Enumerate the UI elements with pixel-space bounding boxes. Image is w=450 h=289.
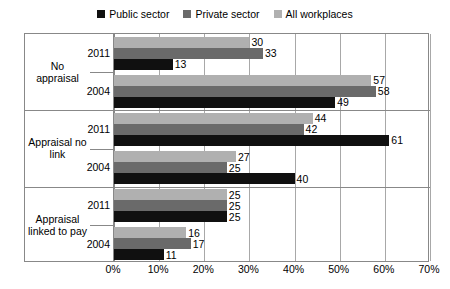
bar-row: 27 [114,151,430,162]
bar-all-workplaces [114,151,236,162]
bar-value-label: 42 [304,124,318,135]
x-axis-tick-labels: 0%10%20%30%40%50%60%70% [113,264,429,282]
x-axis-tick: 20% [193,264,214,275]
bar-value-label: 30 [249,37,263,48]
year-divider [90,149,114,150]
bar-private-sector [114,238,191,249]
category-label: Appraisal nolink [25,136,89,160]
x-axis-tick: 60% [373,264,394,275]
bar-value-label: 61 [389,135,403,146]
x-axis-tick: 50% [328,264,349,275]
bar-all-workplaces [114,75,371,86]
bar-row: 25 [114,200,430,211]
bar-row: 61 [114,135,430,146]
x-axis-tick: 40% [283,264,304,275]
category-label: Noappraisal [33,60,82,84]
bar-row: 42 [114,124,430,135]
bar-public-sector [114,135,389,146]
bar-public-sector [114,173,295,184]
year-label: 2011 [87,200,113,211]
bar-value-label: 57 [371,75,385,86]
bar-row: 25 [114,189,430,200]
year-axis-column: 201120042011200420112004 [90,34,114,261]
bar-public-sector [114,249,164,260]
category-label-line: No [36,60,79,72]
bar-row: 49 [114,97,430,108]
category-label-band: Appraisal nolink [25,110,90,186]
bar-private-sector [114,162,227,173]
category-label-line: Appraisal no [28,136,86,148]
legend-swatch-icon [274,10,282,18]
gridline-70 [430,34,431,261]
bar-value-label: 13 [173,59,187,70]
bar-value-label: 25 [227,212,241,223]
year-label: 2004 [87,162,113,173]
legend-swatch-icon [183,10,191,18]
bar-private-sector [114,124,304,135]
year-divider [90,72,114,73]
x-axis-tick: 70% [418,264,439,275]
legend-label: All workplaces [286,9,353,20]
bar-row: 44 [114,113,430,124]
plot-area: 303313575849444261272540252525161711 [114,34,428,261]
year-label-cell: 2011 [90,34,113,72]
bar-value-label: 25 [227,190,241,201]
x-axis-tick: 0% [105,264,120,275]
category-label-line: appraisal [36,72,79,84]
bar-value-label: 44 [313,113,327,124]
bar-value-label: 17 [191,239,205,250]
bar-row: 25 [114,162,430,173]
year-label-cell: 2004 [90,72,113,110]
x-axis-tick: 30% [238,264,259,275]
category-label-band: Noappraisal [25,34,90,110]
bar-value-label: 49 [335,97,349,108]
year-label-cell: 2004 [90,225,113,263]
bar-public-sector [114,97,335,108]
category-axis-column: NoappraisalAppraisal nolinkAppraisallink… [25,34,90,261]
bar-value-label: 25 [227,201,241,212]
bar-value-label: 40 [295,173,309,184]
bar-row: 11 [114,249,430,260]
legend-item: Public sector [97,9,169,20]
bar-row: 40 [114,173,430,184]
legend-swatch-icon [97,10,105,18]
bar-all-workplaces [114,227,186,238]
bar-all-workplaces [114,189,227,200]
year-label-cell: 2011 [90,187,113,225]
category-label-line: link [28,148,86,160]
category-label-band: Appraisallinked to pay [25,187,90,263]
year-label-cell: 2011 [90,110,113,148]
bar-value-label: 27 [236,151,250,162]
category-label-line: linked to pay [28,225,87,237]
bar-private-sector [114,48,263,59]
year-divider [90,225,114,226]
year-label: 2004 [87,86,113,97]
bar-value-label: 58 [376,86,390,97]
bar-row: 13 [114,59,430,70]
legend-label: Private sector [195,9,259,20]
group-divider [25,187,430,188]
bar-row: 58 [114,86,430,97]
bar-row: 25 [114,211,430,222]
bar-row: 33 [114,48,430,59]
bar-all-workplaces [114,113,313,124]
category-label-line: Appraisal [28,213,87,225]
category-label: Appraisallinked to pay [25,213,90,237]
legend-item: All workplaces [274,9,353,20]
bar-value-label: 16 [186,228,200,239]
bar-all-workplaces [114,37,249,48]
x-axis-tick: 10% [148,264,169,275]
bar-row: 16 [114,227,430,238]
legend-item: Private sector [183,9,259,20]
year-label-cell: 2004 [90,149,113,187]
legend-label: Public sector [109,9,169,20]
bar-value-label: 25 [227,162,241,173]
bar-private-sector [114,200,227,211]
bar-row: 17 [114,238,430,249]
bar-value-label: 11 [164,250,177,261]
year-label: 2004 [87,239,113,250]
bar-public-sector [114,211,227,222]
bar-value-label: 33 [263,48,277,59]
chart-plot-frame: NoappraisalAppraisal nolinkAppraisallink… [24,33,429,262]
chart-legend: Public sectorPrivate sectorAll workplace… [0,4,450,24]
